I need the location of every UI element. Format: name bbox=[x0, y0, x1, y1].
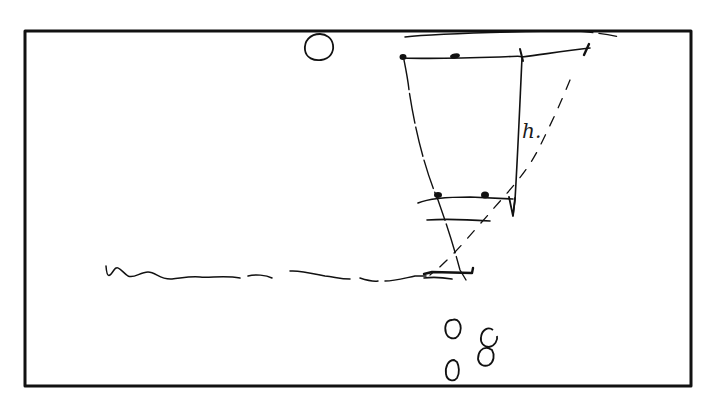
pebble-2 bbox=[481, 328, 497, 347]
pebble-4 bbox=[446, 360, 459, 380]
height-marker-line bbox=[513, 58, 522, 215]
ground-wave bbox=[106, 266, 426, 281]
crossbar-dot-left bbox=[434, 192, 442, 198]
pinhole-crossbar bbox=[427, 219, 490, 221]
sketch-diagram: h. bbox=[0, 0, 706, 406]
pebbles bbox=[445, 319, 497, 380]
image-triangle-base-smear bbox=[424, 277, 452, 279]
top-baseline bbox=[402, 48, 590, 58]
crossbar-dot-right bbox=[481, 192, 489, 199]
height-marker-arrow bbox=[509, 197, 515, 216]
pebble-1 bbox=[445, 319, 461, 338]
right-ray bbox=[430, 80, 570, 275]
height-label: h. bbox=[522, 119, 541, 143]
pebble-3 bbox=[478, 348, 494, 366]
source-circle bbox=[305, 34, 333, 60]
tick-right bbox=[584, 44, 589, 55]
point-left bbox=[400, 54, 407, 60]
image-triangle-base bbox=[424, 268, 473, 274]
left-ray bbox=[404, 60, 466, 280]
diagram-frame bbox=[25, 31, 691, 386]
